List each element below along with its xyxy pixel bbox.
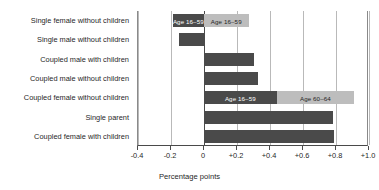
bar-row (138, 33, 367, 46)
category-label: Coupled male with children (40, 55, 129, 64)
category-label: Coupled female with children (34, 132, 129, 141)
x-tick-label: -0.2 (164, 151, 177, 160)
bar-row: Age 16–59Age 60–64 (138, 91, 367, 104)
x-tick-mark (170, 146, 171, 150)
bar-segment: Age 16–59 (204, 91, 277, 104)
bar-segment: Age 60–64 (277, 91, 355, 104)
x-axis-ticks: -0.4-0.20+0.2+0.4+0.6+0.8+1.0 (137, 146, 368, 154)
bar-segment: Age 16–59 (173, 14, 204, 27)
category-axis-labels: Single female without childrenSingle mal… (0, 11, 133, 146)
bar-chart: Single female without childrenSingle mal… (0, 0, 379, 190)
category-label: Single male without children (37, 35, 129, 44)
x-tick-mark (368, 146, 369, 150)
x-tick-mark (269, 146, 270, 150)
plot-area: Age 16–59Age 16–59Age 16–59Age 60–64 (137, 11, 368, 146)
gridline (369, 11, 370, 145)
category-label: Single female without children (31, 16, 129, 25)
x-tick-label: +0.2 (229, 151, 244, 160)
x-tick-label: 0 (201, 151, 205, 160)
bar-segment (204, 53, 254, 66)
bar-segment-label: Age 16–59 (211, 17, 242, 24)
x-tick-label: +0.8 (328, 151, 343, 160)
category-label: Coupled female without children (24, 93, 129, 102)
bar-segment (204, 111, 333, 124)
x-axis-title: Percentage points (0, 172, 379, 181)
x-tick-mark (335, 146, 336, 150)
x-tick-mark (203, 146, 204, 150)
bar-row (138, 130, 367, 143)
bar-segment-label: Age 16–59 (173, 17, 204, 24)
bar-segment-label: Age 60–64 (300, 94, 331, 101)
bar-segment-label: Age 16–59 (225, 94, 256, 101)
bar-segment: Age 16–59 (204, 14, 249, 27)
category-label: Single parent (85, 113, 129, 122)
bar-row (138, 111, 367, 124)
bar-segment (204, 130, 334, 143)
x-tick-label: -0.4 (131, 151, 144, 160)
x-tick-label: +0.6 (295, 151, 310, 160)
bar-segment (204, 72, 258, 85)
bar-row (138, 72, 367, 85)
bar-row (138, 53, 367, 66)
x-tick-label: +1.0 (361, 151, 376, 160)
category-label: Coupled male without children (30, 74, 129, 83)
x-tick-mark (236, 146, 237, 150)
x-tick-mark (302, 146, 303, 150)
bar-segment (179, 33, 204, 46)
x-tick-mark (137, 146, 138, 150)
bar-row: Age 16–59Age 16–59 (138, 14, 367, 27)
x-tick-label: +0.4 (262, 151, 277, 160)
